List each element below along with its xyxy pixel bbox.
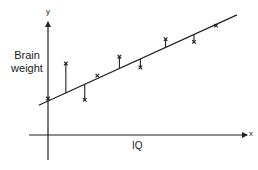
y-axis-letter: y — [46, 8, 50, 16]
data-point-marker — [96, 74, 100, 78]
residual-segments — [66, 34, 194, 99]
y-axis-label: Brain weight — [9, 49, 45, 75]
x-axis-label: IQ — [132, 141, 143, 151]
y-axis-label-text: Brain weight — [9, 49, 45, 75]
regression-line — [39, 15, 237, 105]
regression-figure: y x Brain weight IQ — [0, 0, 258, 170]
x-axis-letter: x — [249, 130, 253, 138]
plot-area — [0, 0, 258, 170]
